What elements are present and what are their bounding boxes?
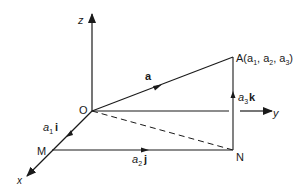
point-N-label: N: [236, 151, 244, 163]
vector-a: [92, 57, 233, 111]
dashed-projection-ON: [92, 111, 233, 150]
x-axis: [27, 111, 92, 176]
y-axis-label: y: [272, 107, 280, 119]
vector-components-diagram: z y x a a3k a2j a1i O M N A(a1, a2, a3): [0, 0, 306, 191]
vector-a1i-label: a1i: [43, 121, 58, 135]
point-M-label: M: [37, 145, 46, 157]
point-O-label: O: [79, 104, 88, 116]
vector-a2j-label: a2j: [132, 153, 147, 167]
x-axis-label: x: [16, 175, 23, 186]
vector-a2j: [52, 148, 233, 153]
vector-a3k-label: a3k: [238, 91, 256, 105]
point-A-label: A(a1, a2, a3): [236, 52, 293, 66]
vector-a-label: a: [145, 70, 152, 82]
vector-a3k: [231, 57, 236, 150]
z-axis-label: z: [77, 14, 84, 26]
